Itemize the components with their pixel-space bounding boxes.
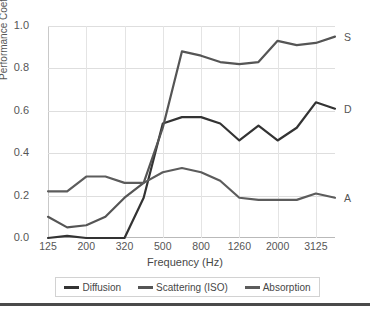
legend-swatch xyxy=(64,286,79,289)
legend-label: Diffusion xyxy=(82,282,121,293)
y-tick-label: 0.8 xyxy=(0,61,29,73)
bottom-rule xyxy=(0,303,370,306)
legend-item[interactable]: Scattering (ISO) xyxy=(138,282,228,293)
y-tick-label: 0.0 xyxy=(0,231,29,243)
series-end-label: D xyxy=(344,103,352,115)
legend-item[interactable]: Diffusion xyxy=(64,282,121,293)
plot-area xyxy=(48,26,335,238)
legend-label: Scattering (ISO) xyxy=(156,282,228,293)
y-tick-label: 0.2 xyxy=(0,189,29,201)
y-tick-label: 0.6 xyxy=(0,104,29,116)
y-tick-label: 1.0 xyxy=(0,19,29,31)
legend-swatch xyxy=(138,286,153,289)
series-lines xyxy=(48,26,335,238)
chart-legend: DiffusionScattering (ISO)Absorption xyxy=(55,277,320,297)
series-end-label: A xyxy=(344,192,351,204)
x-axis-title: Frequency (Hz) xyxy=(0,256,370,268)
legend-item[interactable]: Absorption xyxy=(245,282,311,293)
y-tick-label: 0.4 xyxy=(0,146,29,158)
legend-swatch xyxy=(245,286,260,289)
chart-figure: Performance Coefficient 0.00.20.40.60.81… xyxy=(0,0,370,310)
x-tick-label: 3125 xyxy=(294,240,338,252)
series-end-label: S xyxy=(344,31,351,43)
series-line xyxy=(48,168,335,200)
legend-label: Absorption xyxy=(263,282,311,293)
